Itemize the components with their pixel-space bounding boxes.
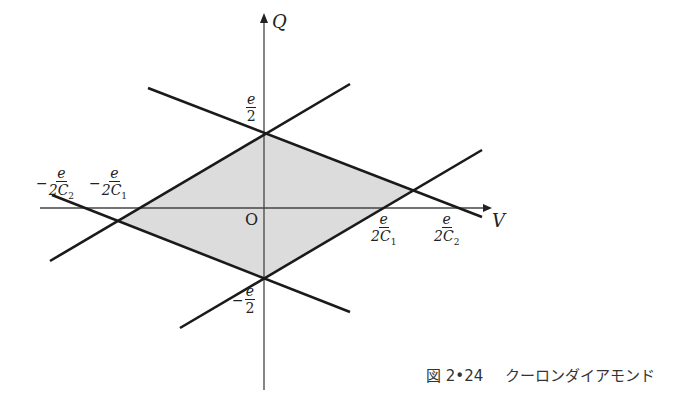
figure-number: 図 2•24 <box>426 367 483 385</box>
tick-v-pos-c1: e2C1 <box>371 212 396 247</box>
v-axis-label: V <box>492 212 505 230</box>
tick-q-top: e2 <box>246 92 256 123</box>
tick-v-neg-c2: −e2C2 <box>36 166 74 201</box>
tick-v-pos-c2: e2C2 <box>434 212 459 247</box>
origin-label: O <box>245 212 258 228</box>
q-axis-arrow-icon <box>260 13 268 23</box>
q-axis-label: Q <box>272 13 287 31</box>
tick-q-bottom: −e2 <box>232 284 255 315</box>
diamond-region <box>119 133 412 277</box>
tick-v-neg-c1: −e2C1 <box>89 166 127 201</box>
figure-title: クーロンダイアモンド <box>505 367 655 385</box>
coulomb-diamond-diagram <box>0 0 699 412</box>
figure-caption: 図 2•24クーロンダイアモンド <box>426 364 655 385</box>
v-axis-arrow-icon <box>483 204 492 212</box>
